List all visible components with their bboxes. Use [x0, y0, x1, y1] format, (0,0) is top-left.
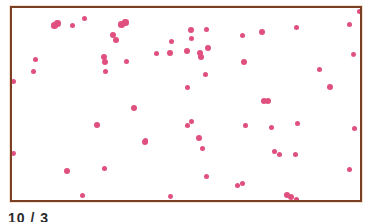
- bacterium-dot: [94, 122, 100, 128]
- bacterium-dot: [54, 20, 60, 26]
- bacterium-dot: [184, 48, 190, 54]
- bacterium-dot: [204, 27, 209, 32]
- bacterium-dot: [82, 16, 87, 21]
- bacterium-dot: [196, 135, 202, 141]
- bacterium-dot: [198, 54, 204, 60]
- bacterium-dot: [167, 50, 173, 56]
- bacterium-dot: [293, 152, 298, 157]
- bacterium-dot: [113, 37, 119, 43]
- bacterium-dot: [11, 151, 16, 156]
- bacterium-dot: [189, 36, 194, 41]
- bacterium-dot: [288, 194, 294, 200]
- bacterium-dot: [168, 194, 173, 199]
- bacterium-dot: [347, 167, 353, 173]
- bacterium-dot: [70, 23, 75, 28]
- bacterium-dot: [294, 25, 299, 30]
- bacterium-dot: [340, 201, 345, 202]
- bacterium-dot: [317, 67, 323, 73]
- bacterium-dot: [357, 9, 362, 14]
- bacterium-dot: [64, 168, 70, 174]
- bacterium-dot: [188, 27, 194, 33]
- bacterium-dot: [327, 84, 333, 90]
- bacterium-dot: [131, 105, 137, 111]
- bacterium-dot: [204, 174, 209, 179]
- bacterium-dot: [185, 85, 191, 91]
- bacterium-dot: [259, 29, 265, 35]
- bacterium-dot: [124, 59, 130, 65]
- micrograph-frame: [10, 6, 362, 202]
- bacterium-dot: [169, 39, 174, 44]
- bacterium-dot: [200, 146, 205, 151]
- bacterium-dot: [203, 72, 209, 78]
- bacterium-dot: [277, 152, 282, 157]
- bacterium-dot: [360, 76, 362, 81]
- bacterium-dot: [294, 197, 299, 202]
- image-caption: 10 / 3: [8, 211, 49, 222]
- bacterium-dot: [295, 121, 300, 126]
- bacterium-dot: [122, 19, 128, 25]
- bacterium-dot: [347, 22, 352, 27]
- bacterium-dot: [351, 52, 356, 57]
- bacterium-dot: [31, 69, 36, 74]
- bacterium-dot: [241, 59, 247, 65]
- bacterium-dot: [11, 79, 17, 85]
- bacterium-dot: [102, 166, 107, 171]
- bacterium-dot: [189, 119, 194, 124]
- bacterium-dot: [240, 33, 245, 38]
- bacterium-dot: [243, 123, 247, 127]
- bacterium-dot: [103, 69, 109, 75]
- bacterium-dot: [265, 98, 271, 104]
- bacterium-dot: [102, 59, 108, 65]
- bacterium-dot: [240, 181, 245, 186]
- bacterium-dot: [269, 125, 275, 131]
- bacterium-dot: [154, 51, 159, 56]
- bacterium-dot: [352, 126, 358, 132]
- bacterium-dot: [205, 45, 211, 51]
- bacterium-dot: [80, 193, 85, 198]
- bacterium-dot: [33, 57, 38, 62]
